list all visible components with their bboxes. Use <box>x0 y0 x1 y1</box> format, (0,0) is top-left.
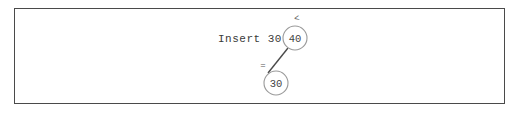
comparison-annotation-equals: = <box>260 61 265 71</box>
operation-label: Insert 30 <box>218 33 282 45</box>
tree-node-root-label: 40 <box>289 33 302 45</box>
diagram-canvas: Insert 30 < = 40 30 <box>0 0 523 117</box>
tree-edge-root-to-child <box>268 48 288 73</box>
tree-node-child-label: 30 <box>270 78 283 90</box>
tree-diagram: Insert 30 < = 40 30 <box>0 0 523 117</box>
comparison-annotation-less-than: < <box>293 14 300 25</box>
